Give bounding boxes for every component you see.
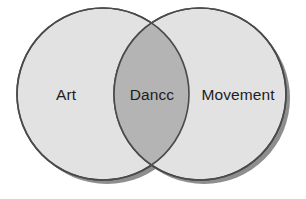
label-movement: Movement bbox=[201, 86, 275, 103]
label-art: Art bbox=[56, 86, 77, 103]
venn-diagram: Art Dancc Movement bbox=[0, 0, 306, 199]
label-dance-intersection: Dancc bbox=[130, 86, 175, 103]
venn-diagram-canvas: Art Dancc Movement bbox=[0, 0, 306, 199]
